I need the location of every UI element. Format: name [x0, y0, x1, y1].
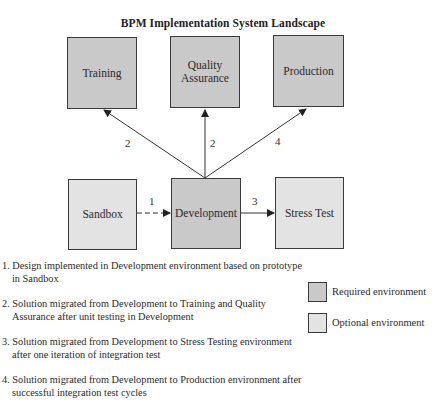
- node-quality-assurance: Quality Assurance: [170, 36, 240, 108]
- arrow-dev-to-production: [205, 109, 306, 178]
- node-qa-label-line1: Quality: [188, 59, 223, 72]
- node-training: Training: [67, 37, 137, 109]
- edge-label-dev-qa: 2: [210, 137, 216, 149]
- node-qa-label-line2: Assurance: [181, 72, 229, 85]
- note-item: 2. Solution migrated from Development to…: [2, 297, 302, 323]
- node-training-label: Training: [82, 67, 121, 80]
- notes-list: 1. Design implemented in Development env…: [2, 259, 302, 411]
- legend-required-label: Required environment: [332, 286, 426, 297]
- legend-required-swatch: [308, 282, 327, 302]
- node-stress-test: Stress Test: [275, 177, 344, 249]
- note-item: 3. Solution migrated from Development to…: [2, 335, 302, 361]
- edge-label-dev-production: 4: [275, 135, 281, 147]
- edge-label-dev-training: 2: [125, 137, 131, 149]
- node-development-label: Development: [175, 207, 237, 220]
- node-production-label: Production: [283, 65, 333, 78]
- node-sandbox-label: Sandbox: [82, 208, 122, 221]
- arrow-dev-to-training: [104, 110, 205, 178]
- edge-label-sandbox-dev: 1: [149, 195, 155, 207]
- node-stress-test-label: Stress Test: [285, 207, 334, 220]
- node-sandbox: Sandbox: [68, 179, 137, 250]
- node-development: Development: [171, 178, 241, 249]
- note-item: 1. Design implemented in Development env…: [2, 259, 302, 285]
- node-production: Production: [273, 35, 344, 107]
- edge-label-dev-stress: 3: [252, 195, 258, 207]
- note-item: 4. Solution migrated from Development to…: [2, 373, 302, 399]
- legend-optional-label: Optional environment: [332, 317, 424, 328]
- legend-optional-swatch: [308, 313, 327, 333]
